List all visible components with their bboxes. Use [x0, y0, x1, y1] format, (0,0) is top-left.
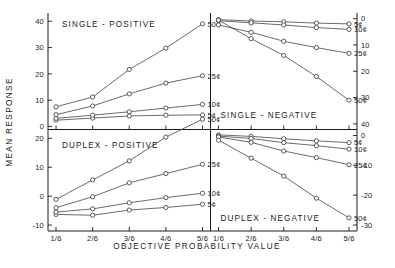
x-tick-label: 5/6 [343, 234, 354, 243]
y-tick-label: 30 [35, 43, 44, 52]
series-label-10¢: 10¢ [354, 145, 367, 154]
data-point-marker [347, 147, 351, 151]
data-point-marker [91, 95, 95, 99]
data-point-marker [127, 159, 131, 163]
x-tick-label: 2/6 [87, 234, 98, 243]
data-point-marker [347, 27, 351, 31]
y-tick-label: 0 [40, 192, 44, 201]
data-point-marker [282, 23, 286, 27]
data-point-marker [216, 138, 220, 142]
x-tick-label: 1/6 [50, 234, 61, 243]
y-axis-title: MEAN RESPONSE [5, 77, 14, 167]
data-point-marker [282, 149, 286, 153]
series-line-50¢ [219, 20, 350, 100]
y-tick-label: -20 [361, 191, 372, 200]
series-label-25¢: 25¢ [208, 72, 221, 81]
data-point-marker [216, 18, 220, 22]
data-point-marker [164, 81, 168, 85]
data-point-marker [91, 178, 95, 182]
data-point-marker [54, 210, 58, 214]
data-point-marker [314, 25, 318, 29]
data-point-marker [164, 171, 168, 175]
data-point-marker [314, 74, 318, 78]
y-tick-label: -10 [33, 221, 44, 230]
data-point-marker [164, 106, 168, 110]
data-point-marker [200, 162, 204, 166]
data-point-marker [314, 144, 318, 148]
data-point-marker [347, 163, 351, 167]
series-label-10¢: 10¢ [208, 100, 221, 109]
series-label-25¢: 25¢ [208, 160, 221, 169]
y-tick-label: 20 [35, 134, 44, 143]
series-label-50¢: 50¢ [354, 96, 367, 105]
data-point-marker [91, 195, 95, 199]
data-point-marker [127, 92, 131, 96]
data-point-marker [200, 202, 204, 206]
figure-container: 0102030405¢10¢25¢50¢SINGLE - POSITIVE010… [0, 0, 395, 268]
data-point-marker [54, 206, 58, 210]
series-label-50¢: 50¢ [208, 115, 221, 124]
data-point-marker [347, 216, 351, 220]
series-label-25¢: 25¢ [354, 161, 367, 170]
panel-title-bottom-left: DUPLEX - POSITIVE [62, 141, 159, 150]
data-point-marker [127, 181, 131, 185]
data-point-marker [200, 191, 204, 195]
data-point-marker [200, 22, 204, 26]
panel-bottom-left [48, 117, 205, 231]
data-point-marker [249, 21, 253, 25]
data-point-marker [282, 141, 286, 145]
data-point-marker [249, 140, 253, 144]
data-point-marker [164, 196, 168, 200]
data-point-marker [282, 53, 286, 57]
y-tick-label: 10 [35, 96, 44, 105]
data-point-marker [347, 98, 351, 102]
data-point-marker [249, 37, 253, 41]
data-point-marker [200, 74, 204, 78]
y-tick-label: 10 [35, 163, 44, 172]
data-point-marker [164, 46, 168, 50]
figure-canvas: 0102030405¢10¢25¢50¢SINGLE - POSITIVE010… [0, 0, 395, 268]
series-label-10¢: 10¢ [208, 189, 221, 198]
series-label-5¢: 5¢ [208, 200, 217, 209]
data-point-marker [249, 156, 253, 160]
data-point-marker [91, 113, 95, 117]
data-point-marker [216, 23, 220, 27]
data-point-marker [127, 67, 131, 71]
data-point-marker [164, 113, 168, 117]
series-label-50¢: 50¢ [354, 214, 367, 223]
data-point-marker [127, 201, 131, 205]
data-point-marker [200, 102, 204, 106]
data-point-marker [314, 196, 318, 200]
data-point-marker [200, 113, 204, 117]
data-point-marker [164, 135, 168, 139]
data-point-marker [347, 51, 351, 55]
panel-title-bottom-right: DUPLEX - NEGATIVE [221, 214, 321, 223]
data-point-marker [200, 117, 204, 121]
data-point-marker [91, 207, 95, 211]
panel-title-top-right: SINGLE - NEGATIVE [221, 111, 318, 120]
data-point-marker [314, 155, 318, 159]
data-point-marker [347, 141, 351, 145]
y-tick-label: 20 [35, 70, 44, 79]
y-tick-label: 40 [35, 17, 44, 26]
data-point-marker [249, 30, 253, 34]
data-point-marker [282, 39, 286, 43]
y-tick-label: 40 [361, 120, 370, 129]
x-tick-label: 4/6 [311, 234, 322, 243]
y-tick-label: 20 [361, 67, 370, 76]
series-label-10¢: 10¢ [354, 25, 367, 34]
data-point-marker [314, 139, 318, 143]
data-point-marker [91, 213, 95, 217]
panel-top-left [48, 21, 205, 129]
data-point-marker [54, 197, 58, 201]
data-point-marker [54, 113, 58, 117]
data-point-marker [314, 45, 318, 49]
data-point-marker [127, 208, 131, 212]
data-point-marker [282, 174, 286, 178]
y-tick-label: 0 [40, 122, 44, 131]
panel-title-top-left: SINGLE - POSITIVE [62, 20, 156, 29]
data-point-marker [91, 104, 95, 108]
data-point-marker [127, 114, 131, 118]
data-point-marker [164, 205, 168, 209]
x-axis-title: OBJECTIVE PROBABILITY VALUE [113, 242, 281, 251]
